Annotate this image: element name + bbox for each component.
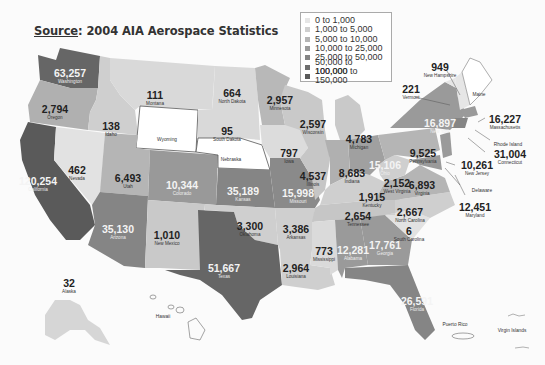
state-value: 15,998 (282, 188, 314, 199)
label-south-dakota: 95South Dakota (213, 126, 241, 143)
state-name: Kentucky (359, 203, 385, 209)
state-value: 2,794 (42, 104, 68, 115)
state-name: Michigan (346, 145, 372, 151)
legend: 0 to 1,000 1,000 to 5,000 5,000 to 10,00… (300, 12, 392, 82)
state-name: California (19, 187, 57, 193)
state-value: 797 (280, 148, 298, 159)
state-name: Alaska (62, 289, 76, 295)
state-name: Washington (54, 79, 86, 85)
legend-swatch (305, 27, 310, 32)
label-alabama: 12,281Alabama (337, 245, 369, 262)
state-name: Delaware (472, 188, 492, 194)
state-value: 2,152 (384, 178, 411, 189)
state-value: 221 (402, 84, 420, 95)
label-north-dakota: 664North Dakota (218, 88, 245, 105)
label-michigan: 4,783Michigan (346, 134, 372, 151)
label-connecticut: 31,004Connecticut (494, 149, 526, 166)
state-value: 2,964 (283, 263, 309, 274)
label-kansas: 35,189Kansas (227, 186, 259, 203)
state-name: New Jersey (461, 171, 493, 177)
state-name: Massachusetts (489, 125, 521, 131)
state-name: Indiana (339, 179, 365, 185)
state-alaska[interactable] (45, 300, 110, 345)
state-name: Maine (472, 92, 485, 98)
state-name: Alabama (337, 256, 369, 262)
legend-swatch (305, 37, 310, 42)
state-name: Colorado (166, 191, 198, 197)
label-louisiana: 2,964Louisiana (283, 263, 309, 280)
state-name: North Dakota (218, 99, 245, 105)
state-new-jersey[interactable] (440, 132, 452, 158)
label-california: 120,254California (19, 176, 57, 193)
label-hawaii: Hawaii (156, 314, 170, 320)
legend-swatch (305, 18, 310, 23)
state-name: Iowa (280, 159, 298, 165)
label-west-virginia: 2,152West Virginia (384, 178, 411, 195)
label-puerto-rico: Puerto Rico (442, 322, 467, 328)
state-name: Louisiana (283, 274, 309, 280)
state-value: 6,893 (409, 180, 435, 191)
state-value: 120,254 (19, 176, 57, 187)
state-name: Connecticut (494, 160, 526, 166)
state-name: West Virginia (384, 189, 411, 195)
state-name: Missouri (282, 199, 314, 205)
state-value: 15,106 (369, 160, 401, 171)
label-virgin-islands: Virgin Islands (498, 328, 527, 334)
label-florida: 26,591Florida (401, 296, 433, 313)
state-name: Virgin Islands (498, 328, 527, 334)
state-value: 1,915 (359, 192, 385, 203)
state-puerto-rico[interactable] (452, 333, 474, 339)
state-value: 35,130 (102, 224, 134, 235)
label-pennsylvania: 9,525Pennsylvania (409, 148, 436, 165)
state-wyoming[interactable] (136, 106, 198, 152)
label-north-carolina: 2,667North Carolina (395, 207, 425, 224)
legend-swatch (305, 74, 310, 79)
state-value: 3,386 (283, 224, 309, 235)
label-texas: 51,667Texas (208, 263, 240, 280)
state-name: Illinois (300, 182, 326, 188)
label-colorado: 10,344Colorado (166, 180, 198, 197)
label-illinois: 4,537Illinois (300, 171, 326, 188)
state-name: New York (424, 129, 456, 135)
state-name: Kansas (227, 197, 259, 203)
state-name: Idaho (102, 132, 120, 138)
state-value: 2,957 (267, 95, 293, 106)
label-mississippi: 773Mississippi (313, 246, 335, 263)
label-ohio: 15,106Ohio (369, 160, 401, 177)
label-delaware: Delaware (472, 188, 492, 194)
label-arizona: 35,130Arizona (102, 224, 134, 241)
label-tennessee: 2,654Tennessee (345, 211, 371, 228)
state-name: Florida (401, 307, 433, 313)
state-value: 12,451 (459, 202, 491, 213)
state-name: Oklahoma (237, 232, 263, 238)
label-arkansas: 3,386Arkansas (283, 224, 309, 241)
label-wisconsin: 2,597Wisconsin (300, 119, 326, 136)
label-south-carolina: 6South Carolina (394, 226, 424, 243)
state-name: Puerto Rico (442, 322, 467, 328)
state-name: Arizona (102, 235, 134, 241)
map-page: Source: 2004 AIA Aerospace Statistics (0, 0, 545, 365)
state-name: Oregon (42, 115, 68, 121)
state-name: Hawaii (156, 314, 170, 320)
label-idaho: 138Idaho (102, 121, 120, 138)
label-maryland: 12,451Maryland (459, 202, 491, 219)
state-value: 111 (146, 90, 164, 101)
state-name: Minnesota (267, 106, 293, 112)
label-kentucky: 1,915Kentucky (359, 192, 385, 209)
state-value: 6,493 (115, 173, 141, 184)
state-value: 8,683 (339, 168, 365, 179)
state-value: 63,257 (54, 68, 86, 79)
state-value: 32 (62, 278, 76, 289)
label-missouri: 15,998Missouri (282, 188, 314, 205)
state-name: Tennessee (345, 222, 371, 228)
state-name: Wisconsin (300, 130, 326, 136)
state-name: New Mexico (154, 241, 180, 247)
state-name: North Carolina (395, 218, 425, 224)
state-value: 2,654 (345, 211, 371, 222)
state-value: 664 (218, 88, 245, 99)
us-map (0, 0, 545, 365)
state-value: 12,281 (337, 245, 369, 256)
label-new-york: 16,897New York (424, 118, 456, 135)
state-value: 16,227 (489, 114, 521, 125)
label-utah: 6,493Utah (115, 173, 141, 190)
